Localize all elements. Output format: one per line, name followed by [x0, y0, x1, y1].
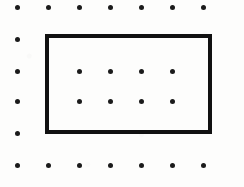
figure-canvas — [0, 0, 244, 187]
rectangle-shape — [47, 36, 210, 132]
rectangle-layer — [0, 0, 244, 187]
